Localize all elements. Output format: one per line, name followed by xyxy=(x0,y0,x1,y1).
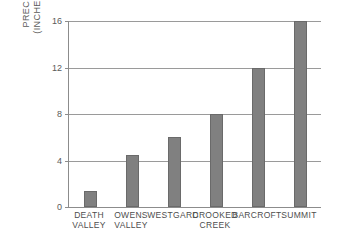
gridline-4 xyxy=(69,161,321,162)
x-axis-label-line-1: OWENS xyxy=(114,210,148,220)
x-axis-label-line-1: DEATH xyxy=(74,210,104,220)
x-axis-labels: DEATHVALLEYOWENSVALLEYWESTGARDCROOKEDCRE… xyxy=(68,210,320,242)
precipitation-bar-chart: PRECIPITATION (INCHES OF RAIN) 0481216 D… xyxy=(0,0,337,242)
x-axis-label-westgard: WESTGARD xyxy=(147,210,199,220)
bar-westgard xyxy=(168,137,181,207)
y-tick-label-16: 16 xyxy=(52,16,62,26)
x-axis-label-barcroft: BARCROFT xyxy=(232,210,281,220)
gridline-16 xyxy=(69,21,321,22)
y-tick-label-4: 4 xyxy=(57,156,62,166)
gridline-8 xyxy=(69,114,321,115)
bar-crooked-creek xyxy=(210,114,223,207)
x-axis-label-crooked-creek: CROOKEDCREEK xyxy=(192,210,237,230)
bar-owens-valley xyxy=(126,155,139,207)
x-axis-label-line-1: SUMMIT xyxy=(281,210,316,220)
x-axis-label-line-2: CREEK xyxy=(192,220,237,230)
gridline-12 xyxy=(69,68,321,69)
bar-summit xyxy=(294,21,307,207)
x-axis-label-summit: SUMMIT xyxy=(281,210,316,220)
x-axis-label-line-2: VALLEY xyxy=(114,220,148,230)
y-tick-label-8: 8 xyxy=(57,109,62,119)
plot-area: 0481216 xyxy=(68,21,321,208)
y-tick-mark-12 xyxy=(65,68,69,69)
y-axis-title: PRECIPITATION (INCHES OF RAIN) xyxy=(17,0,47,66)
y-tick-mark-4 xyxy=(65,161,69,162)
x-axis-label-line-2: VALLEY xyxy=(72,220,105,230)
bar-death-valley xyxy=(84,191,97,207)
bar-barcroft xyxy=(252,68,265,208)
x-axis-label-line-1: CROOKED xyxy=(192,210,237,220)
x-axis-label-death-valley: DEATHVALLEY xyxy=(72,210,105,230)
y-tick-mark-0 xyxy=(65,207,69,208)
x-axis-label-line-1: BARCROFT xyxy=(232,210,281,220)
y-tick-mark-16 xyxy=(65,21,69,22)
y-tick-label-0: 0 xyxy=(57,202,62,212)
y-axis-title-line-1: PRECIPITATION xyxy=(21,0,32,27)
x-axis-label-owens-valley: OWENSVALLEY xyxy=(114,210,148,230)
y-tick-label-12: 12 xyxy=(52,63,62,73)
x-axis-label-line-1: WESTGARD xyxy=(147,210,199,220)
y-tick-mark-8 xyxy=(65,114,69,115)
y-axis-title-line-2: (INCHES OF RAIN) xyxy=(32,0,43,34)
